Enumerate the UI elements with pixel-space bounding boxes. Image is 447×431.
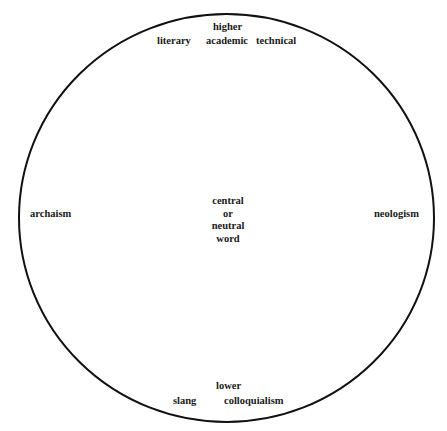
- vocabulary-circle-diagram: higher literary academic technical archa…: [0, 0, 447, 431]
- center-line-4: word: [196, 233, 260, 246]
- label-lower: lower: [216, 380, 241, 392]
- label-academic: academic: [206, 35, 248, 47]
- label-literary: literary: [157, 35, 191, 47]
- label-higher: higher: [213, 21, 242, 33]
- label-technical: technical: [256, 35, 296, 47]
- center-line-3: neutral: [196, 220, 260, 233]
- label-slang: slang: [173, 395, 196, 407]
- label-archaism: archaism: [30, 208, 71, 220]
- center-line-2: or: [196, 208, 260, 221]
- label-neologism: neologism: [374, 208, 419, 220]
- center-line-1: central: [196, 195, 260, 208]
- label-colloquialism: colloquialism: [224, 395, 284, 407]
- center-neutral-word: central or neutral word: [196, 195, 260, 245]
